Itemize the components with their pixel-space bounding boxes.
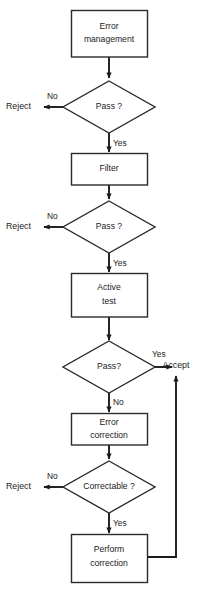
- node-active-test: Active test: [72, 274, 148, 318]
- node-error-correction: Error correction: [72, 414, 148, 446]
- node-error-management-line-1: Error: [99, 21, 118, 31]
- edge-label-pass1-yes: Yes: [113, 138, 127, 148]
- node-error-management: Error management: [72, 11, 148, 58]
- node-correctable: Correctable ?: [63, 461, 155, 513]
- edge-label-pass2-yes: Yes: [113, 258, 127, 268]
- node-pass-2: Pass ?: [63, 201, 155, 253]
- node-pass-3-label: Pass?: [97, 361, 121, 371]
- flowchart-canvas: Error management Pass ? Filter Pass ? Ac…: [0, 0, 203, 594]
- node-active-test-line-2: test: [102, 296, 116, 306]
- node-correctable-label: Correctable ?: [83, 481, 135, 491]
- node-error-management-line-2: management: [84, 34, 135, 44]
- edge-label-pass3-no: No: [113, 397, 124, 407]
- terminal-reject-2: Reject: [6, 221, 31, 231]
- node-active-test-line-1: Active: [97, 282, 121, 292]
- terminal-reject-1: Reject: [6, 101, 31, 111]
- edge-label-correctable-yes: Yes: [113, 518, 127, 528]
- node-pass-1-label: Pass ?: [96, 101, 122, 111]
- terminal-reject-3: Reject: [6, 481, 31, 491]
- edge-label-pass1-no: No: [47, 91, 58, 101]
- edge-label-pass3-yes: Yes: [152, 349, 166, 359]
- node-error-correction-line-1: Error: [99, 417, 118, 427]
- edge-label-correctable-no: No: [47, 471, 58, 481]
- node-perform-correction-line-1: Perform: [94, 544, 125, 554]
- flowchart-diagram: Error management Pass ? Filter Pass ? Ac…: [0, 0, 203, 594]
- node-filter-label: Filter: [99, 163, 118, 173]
- figure-caption: [0, 585, 203, 594]
- node-error-correction-line-2: correction: [90, 430, 128, 440]
- node-pass-1: Pass ?: [63, 81, 155, 133]
- terminal-accept: Accept: [163, 360, 190, 370]
- node-pass-2-label: Pass ?: [96, 221, 122, 231]
- node-perform-correction: Perform correction: [72, 535, 148, 583]
- edge-performcorrection-feedback-to-accept: [147, 376, 176, 557]
- node-perform-correction-line-2: correction: [90, 558, 128, 568]
- node-filter: Filter: [72, 154, 148, 186]
- node-pass-3: Pass?: [63, 341, 155, 393]
- edge-label-pass2-no: No: [47, 211, 58, 221]
